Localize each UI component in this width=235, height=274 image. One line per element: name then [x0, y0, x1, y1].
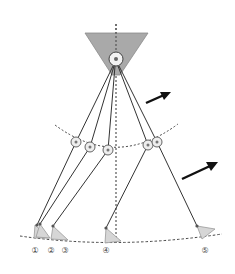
leg-label-1: ①: [31, 246, 38, 255]
leg-label-3: ③: [61, 246, 68, 255]
foot-4: [105, 228, 121, 243]
hip-joint-center: [114, 57, 118, 61]
foot-3: [51, 226, 68, 240]
leg-swing-diagram: ① ② ③ ④ ⑤: [0, 0, 235, 274]
leg-label-5: ⑤: [201, 246, 208, 255]
leg-labels: ① ② ③ ④ ⑤: [31, 246, 208, 255]
arrow-icon: [146, 92, 171, 103]
leg-label-2: ②: [47, 246, 54, 255]
leg-label-4: ④: [102, 246, 109, 255]
shin-lines: [37, 142, 197, 228]
arrow-icon: [182, 162, 218, 179]
ankle-joints: [35, 222, 198, 229]
